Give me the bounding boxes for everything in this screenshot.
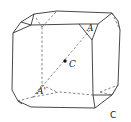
label-a-prime: A' <box>36 86 46 96</box>
solid-edges <box>12 11 120 108</box>
crystal-drawing: A C A' C <box>0 0 131 122</box>
center-point <box>63 59 66 62</box>
label-center: C <box>69 59 76 69</box>
label-a: A <box>86 23 94 33</box>
figure-caption-letter: C <box>110 110 116 120</box>
crystal-diagram: A C A' C <box>0 0 131 122</box>
